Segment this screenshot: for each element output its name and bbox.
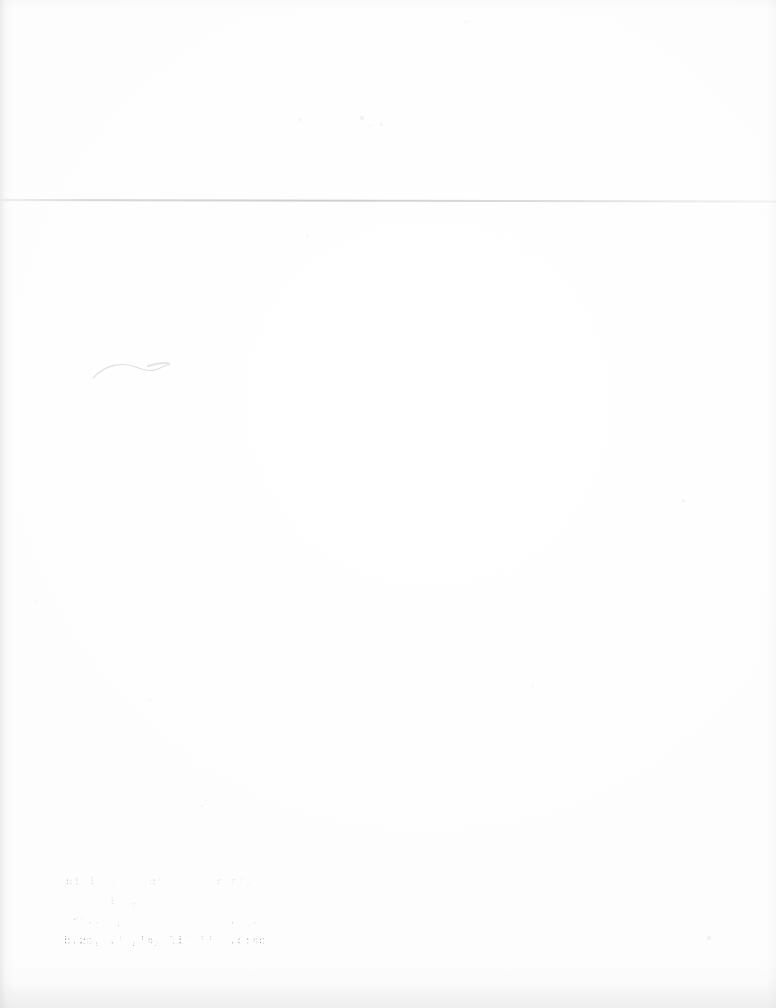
dust-speck xyxy=(486,407,488,409)
dust-speck xyxy=(95,455,97,457)
scan-edge-left xyxy=(0,0,14,1008)
paper-background xyxy=(0,0,776,1008)
dust-speck xyxy=(707,936,710,939)
dust-speck xyxy=(360,116,363,119)
dust-speck xyxy=(263,645,265,647)
faded-text-line-4: b,2s, .' ,'4, li' '' .(:4e...2s'2' xyxy=(64,931,264,951)
faded-stamp-block: Ri l F R' r n', P:A nT's l , . . o ''a T… xyxy=(64,872,264,950)
scan-edge-right xyxy=(766,0,776,1008)
scanned-document-page: Ri l F R' r n', P:A nT's l , . . o ''a T… xyxy=(0,0,776,1008)
dust-speck xyxy=(628,689,630,691)
pen-squiggle-mark xyxy=(88,352,178,386)
faded-text-line-1: Ri l F R' r n', P:A nT's xyxy=(66,872,264,892)
faded-text-line-3: Tr:.. , . . . rl'r. xyxy=(64,911,264,931)
dust-speck xyxy=(682,499,685,502)
scan-edge-bottom xyxy=(0,962,776,1008)
faded-text-line-2: l , . . o ''a xyxy=(86,892,264,912)
scan-edge-top xyxy=(0,0,776,10)
dust-speck xyxy=(380,123,383,126)
